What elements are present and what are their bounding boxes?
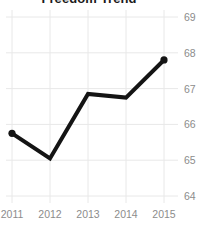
x-axis-tick-label: 2013 (76, 208, 99, 220)
y-axis-tick-label: 64 (184, 190, 196, 202)
y-axis-tick-label: 65 (184, 154, 196, 166)
plot-area (0, 0, 207, 230)
x-axis-tick-label: 2011 (1, 208, 24, 220)
y-axis-tick-label: 67 (184, 83, 196, 95)
y-axis-tick-label: 66 (184, 118, 196, 130)
x-axis-tick-label: 2012 (38, 208, 61, 220)
vertical-gridlines (12, 10, 164, 203)
x-axis-tick-label: 2015 (152, 208, 175, 220)
data-point-marker (160, 56, 167, 63)
y-axis-tick-label: 68 (184, 47, 196, 59)
x-axis-tick-label: 2014 (114, 208, 137, 220)
line-chart-svg (0, 0, 207, 230)
chart-container: Freedom Trend 646566676869 2011201220132… (0, 0, 207, 230)
data-point-marker (8, 130, 15, 137)
y-axis-tick-label: 69 (184, 11, 196, 23)
horizontal-gridlines (6, 17, 178, 196)
